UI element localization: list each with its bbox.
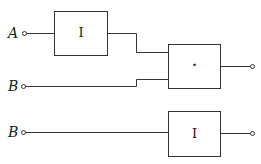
gate-1-output-wire (108, 34, 169, 53)
input-b1-label: B (8, 79, 18, 93)
input-a-terminal (23, 32, 27, 36)
gate-2-symbol: · (168, 58, 221, 71)
gate-1-symbol: I (54, 26, 108, 39)
input-a-label: A (8, 26, 18, 40)
gate-3-output-terminal (251, 132, 255, 136)
gate-3-symbol: I (168, 127, 221, 140)
gate-2-output-terminal (251, 65, 255, 69)
input-b1-terminal (22, 85, 26, 89)
input-b2-label: B (8, 125, 18, 139)
circuit-diagram (0, 0, 261, 164)
input-b1-wire (26, 80, 169, 87)
input-b2-terminal (22, 131, 26, 135)
